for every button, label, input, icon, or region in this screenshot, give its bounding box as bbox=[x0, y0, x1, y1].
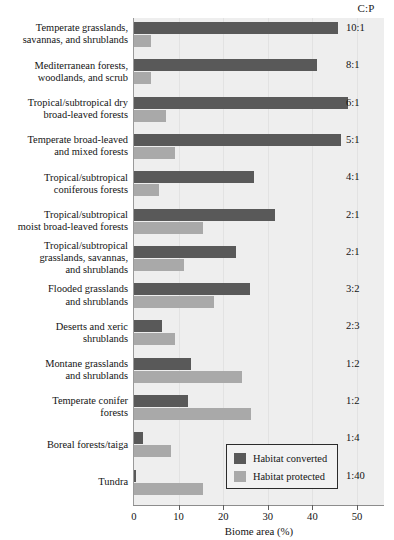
category-label-line: Flooded grasslands bbox=[2, 283, 128, 295]
category-label-line: and shrublands bbox=[2, 296, 128, 308]
category-label-line: Temperate broad-leaved bbox=[2, 134, 128, 146]
chart-row: Mediterranean forests,woodlands, and scr… bbox=[0, 59, 394, 84]
x-tick-label: 20 bbox=[208, 511, 238, 522]
bar-habitat-converted bbox=[134, 283, 250, 295]
bar-habitat-protected bbox=[134, 110, 166, 122]
bar-habitat-converted bbox=[134, 22, 338, 34]
cp-ratio-value: 6:1 bbox=[346, 97, 390, 108]
category-label-line: Tundra bbox=[2, 476, 128, 488]
biome-habitat-chart: C:P Temperate grasslands,savannas, and s… bbox=[0, 0, 394, 540]
legend-label-protected: Habitat protected bbox=[253, 471, 325, 482]
category-label-line: Temperate conifer bbox=[2, 395, 128, 407]
category-label-line: Temperate grasslands, bbox=[2, 22, 128, 34]
bar-habitat-protected bbox=[134, 184, 159, 196]
legend-item-converted: Habitat converted bbox=[234, 451, 327, 465]
chart-row: Temperate grasslands,savannas, and shrub… bbox=[0, 22, 394, 47]
category-label: Temperate broad-leavedand mixed forests bbox=[2, 134, 128, 158]
bar-habitat-converted bbox=[134, 171, 254, 183]
category-label-line: Tropical/subtropical bbox=[2, 172, 128, 184]
category-label: Temperate grasslands,savannas, and shrub… bbox=[2, 22, 128, 46]
cp-column-header: C:P bbox=[342, 2, 390, 14]
category-label: Tropical/subtropicalgrasslands, savannas… bbox=[2, 240, 128, 276]
category-label-line: Mediterranean forests, bbox=[2, 60, 128, 72]
x-tick-label: 30 bbox=[253, 511, 283, 522]
bar-habitat-protected bbox=[134, 222, 203, 234]
legend-item-protected: Habitat protected bbox=[234, 469, 325, 483]
legend-swatch-protected-icon bbox=[234, 471, 246, 482]
chart-row: Tropical/subtropicalgrasslands, savannas… bbox=[0, 246, 394, 271]
cp-ratio-value: 2:1 bbox=[346, 246, 390, 257]
category-label: Boreal forests/taiga bbox=[2, 439, 128, 451]
category-label: Tropical/subtropical drybroad-leaved for… bbox=[2, 97, 128, 121]
chart-row: Temperate broad-leavedand mixed forests5… bbox=[0, 134, 394, 159]
bar-habitat-converted bbox=[134, 134, 341, 146]
category-label-line: coniferous forests bbox=[2, 184, 128, 196]
cp-ratio-value: 5:1 bbox=[346, 134, 390, 145]
bar-habitat-protected bbox=[134, 147, 175, 159]
bar-habitat-protected bbox=[134, 35, 151, 47]
cp-ratio-value: 1:40 bbox=[346, 470, 390, 481]
category-label-line: and shrublands bbox=[2, 264, 128, 276]
category-label: Tundra bbox=[2, 476, 128, 488]
x-tick-label: 0 bbox=[119, 511, 149, 522]
category-label: Deserts and xericshrublands bbox=[2, 321, 128, 345]
category-label-line: shrublands bbox=[2, 333, 128, 345]
cp-ratio-value: 1:4 bbox=[346, 432, 390, 443]
bar-habitat-converted bbox=[134, 59, 317, 71]
category-label-line: Montane grasslands bbox=[2, 358, 128, 370]
bar-habitat-converted bbox=[134, 470, 136, 482]
chart-row: Deserts and xericshrublands2:3 bbox=[0, 320, 394, 345]
chart-row: Tropical/subtropicalconiferous forests4:… bbox=[0, 171, 394, 196]
bar-habitat-converted bbox=[134, 97, 348, 109]
chart-row: Tropical/subtropical drybroad-leaved for… bbox=[0, 97, 394, 122]
bar-habitat-converted bbox=[134, 320, 162, 332]
category-label: Montane grasslandsand shrublands bbox=[2, 358, 128, 382]
cp-ratio-value: 3:2 bbox=[346, 283, 390, 294]
bar-habitat-converted bbox=[134, 209, 275, 221]
bar-habitat-protected bbox=[134, 72, 151, 84]
cp-ratio-value: 4:1 bbox=[346, 171, 390, 182]
category-label-line: grasslands, savannas, bbox=[2, 252, 128, 264]
cp-ratio-value: 2:3 bbox=[346, 320, 390, 331]
category-label: Tropical/subtropicalconiferous forests bbox=[2, 172, 128, 196]
bar-habitat-protected bbox=[134, 445, 171, 457]
category-label: Tropical/subtropicalmoist broad-leaved f… bbox=[2, 209, 128, 233]
x-axis-title: Biome area (%) bbox=[134, 525, 384, 537]
bar-habitat-converted bbox=[134, 358, 191, 370]
category-label: Temperate coniferforests bbox=[2, 395, 128, 419]
bar-habitat-protected bbox=[134, 483, 203, 495]
cp-ratio-value: 1:2 bbox=[346, 395, 390, 406]
bar-habitat-protected bbox=[134, 371, 242, 383]
category-label-line: Tropical/subtropical bbox=[2, 209, 128, 221]
x-tick-label: 40 bbox=[297, 511, 327, 522]
x-tick-mark bbox=[312, 505, 313, 510]
category-label-line: forests bbox=[2, 407, 128, 419]
category-label-line: and shrublands bbox=[2, 370, 128, 382]
category-label-line: moist broad-leaved forests bbox=[2, 221, 128, 233]
cp-ratio-value: 10:1 bbox=[346, 22, 390, 33]
chart-row: Tropical/subtropicalmoist broad-leaved f… bbox=[0, 209, 394, 234]
bar-habitat-protected bbox=[134, 296, 214, 308]
category-label-line: broad-leaved forests bbox=[2, 109, 128, 121]
chart-row: Montane grasslandsand shrublands1:2 bbox=[0, 358, 394, 383]
category-label-line: Boreal forests/taiga bbox=[2, 439, 128, 451]
category-label-line: woodlands, and scrub bbox=[2, 72, 128, 84]
x-axis-line bbox=[133, 505, 384, 506]
x-tick-mark bbox=[223, 505, 224, 510]
category-label-line: Tropical/subtropical dry bbox=[2, 97, 128, 109]
cp-ratio-value: 1:2 bbox=[346, 358, 390, 369]
bar-habitat-protected bbox=[134, 408, 251, 420]
legend-label-converted: Habitat converted bbox=[253, 453, 327, 464]
category-label-line: Tropical/subtropical bbox=[2, 240, 128, 252]
x-tick-label: 50 bbox=[342, 511, 372, 522]
category-label: Flooded grasslandsand shrublands bbox=[2, 283, 128, 307]
chart-row: Temperate coniferforests1:2 bbox=[0, 395, 394, 420]
category-label-line: savannas, and shrublands bbox=[2, 34, 128, 46]
x-tick-label: 10 bbox=[164, 511, 194, 522]
bar-habitat-protected bbox=[134, 333, 175, 345]
bar-habitat-converted bbox=[134, 432, 143, 444]
x-tick-mark bbox=[179, 505, 180, 510]
x-tick-mark bbox=[357, 505, 358, 510]
category-label-line: Deserts and xeric bbox=[2, 321, 128, 333]
cp-ratio-value: 2:1 bbox=[346, 209, 390, 220]
